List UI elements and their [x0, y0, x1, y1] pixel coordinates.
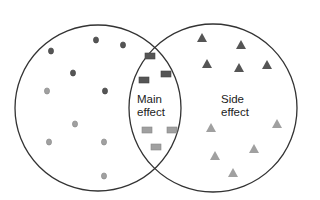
side-effect-label: Side effect [221, 93, 249, 119]
circle-marker [70, 70, 75, 76]
circle-marker [120, 42, 125, 48]
rect-marker [145, 53, 155, 59]
side-effect-line1: Side [221, 93, 249, 106]
rect-marker [167, 127, 177, 133]
rect-marker [142, 127, 152, 133]
triangle-marker [262, 60, 272, 69]
circle-marker [101, 139, 106, 145]
triangle-marker [206, 123, 216, 132]
circle-marker [46, 139, 51, 145]
circle-marker [44, 88, 49, 94]
circle-marker [102, 88, 107, 94]
triangle-marker [249, 144, 259, 153]
rect-marker [139, 77, 149, 83]
triangle-marker [228, 168, 238, 177]
triangle-marker [236, 40, 246, 49]
triangle-marker [272, 119, 282, 128]
circle-marker [48, 48, 53, 54]
triangle-marker [202, 59, 212, 68]
triangle-marker [197, 33, 207, 42]
circle-marker [93, 37, 98, 43]
main-effect-line1: Main [137, 93, 165, 106]
triangle-marker [210, 151, 220, 160]
main-effect-line2: effect [137, 106, 165, 119]
triangle-marker [234, 63, 244, 72]
rect-marker [151, 144, 161, 150]
main-effect-label: Main effect [137, 93, 165, 119]
side-effect-line2: effect [221, 106, 249, 119]
rect-marker [161, 71, 171, 77]
circle-marker [101, 173, 106, 179]
circle-marker [72, 121, 77, 127]
